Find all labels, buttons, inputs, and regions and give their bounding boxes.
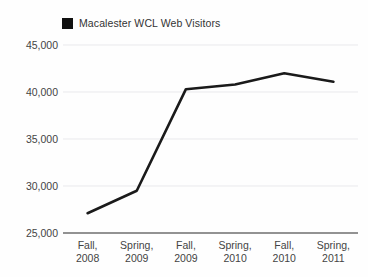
x-tick-line1: Spring, <box>302 239 364 252</box>
data-series-line <box>88 73 334 213</box>
gridlines <box>63 45 358 186</box>
x-tick-line2: 2011 <box>302 252 364 265</box>
legend-item-label: Macalester WCL Web Visitors <box>79 18 220 29</box>
y-axis-tick-label: 45,000 <box>6 40 58 50</box>
plot-area <box>63 45 358 233</box>
chart-svg <box>63 45 358 233</box>
x-axis-labels: Fall,2008Spring,2009Fall,2009Spring,2010… <box>63 239 358 273</box>
x-axis-tick-label: Spring,2011 <box>302 239 364 265</box>
chart-container: Macalester WCL Web Visitors 45,00040,000… <box>0 0 368 277</box>
legend-swatch-icon <box>62 18 73 29</box>
chart-legend: Macalester WCL Web Visitors <box>62 15 220 31</box>
y-axis-tick-label: 40,000 <box>6 87 58 97</box>
y-axis-labels: 45,00040,00035,00030,00025,000 <box>0 0 58 277</box>
y-axis-tick-label: 25,000 <box>6 228 58 238</box>
y-axis-tick-label: 30,000 <box>6 181 58 191</box>
y-axis-tick-label: 35,000 <box>6 134 58 144</box>
